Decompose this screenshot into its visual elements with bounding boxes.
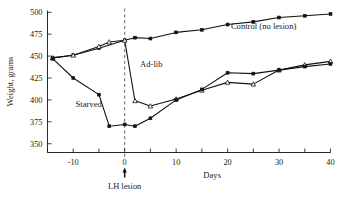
y-axis-tick-label: 475 [30,30,42,39]
data-point-marker [226,23,229,26]
y-axis-tick-label: 400 [30,96,42,105]
data-point-marker [200,28,203,31]
chart-axes [48,11,331,153]
adlib-series-label: Ad-lib [140,59,162,69]
data-point-marker [329,13,332,16]
data-point-marker [175,98,178,101]
data-point-marker [226,71,229,74]
data-point-marker [303,65,306,68]
series-line-ad-lib [53,40,331,106]
x-axis-tick-label: -10 [68,158,79,167]
y-axis-tick-label: 450 [30,52,42,61]
series-line-starved [53,59,331,126]
data-point-marker [278,69,281,72]
lh-lesion-arrow-icon [122,168,126,178]
weight-regulation-chart: 350375400425450475500-10010203040DaysWei… [0,0,345,200]
x-axis-tick-label: 20 [223,158,231,167]
y-axis-tick-label: 350 [30,140,42,149]
x-axis-tick-label: 10 [172,158,180,167]
data-point-marker [278,16,281,19]
data-point-marker [72,77,75,80]
y-axis-title: Weight, grams [5,56,15,107]
data-point-marker [134,125,137,128]
data-point-marker [51,57,54,60]
data-point-marker [149,37,152,40]
data-point-marker [252,72,255,75]
data-point-marker [200,88,203,91]
data-point-marker [133,98,138,102]
x-axis-tick-label: 0 [123,158,127,167]
starved-series-label: Starved [76,99,103,109]
y-axis-tick-label: 375 [30,118,42,127]
data-point-marker [123,123,126,126]
chart-canvas: 350375400425450475500-10010203040DaysWei… [0,0,345,200]
data-point-marker [98,93,101,96]
x-axis-tick-label: 30 [275,158,283,167]
data-point-marker [303,14,306,17]
y-axis-tick-label: 500 [30,8,42,17]
control-series-label: Control (no lesion) [231,21,297,31]
lh-lesion-label: LH lesion [108,182,142,191]
data-point-marker [108,125,111,128]
data-point-marker [149,117,152,120]
data-point-marker [329,63,332,66]
y-axis-tick-label: 425 [30,74,42,83]
data-point-marker [175,31,178,34]
x-axis-title: Days [203,170,221,180]
x-axis-tick-label: 40 [326,158,334,167]
data-point-marker [134,36,137,39]
